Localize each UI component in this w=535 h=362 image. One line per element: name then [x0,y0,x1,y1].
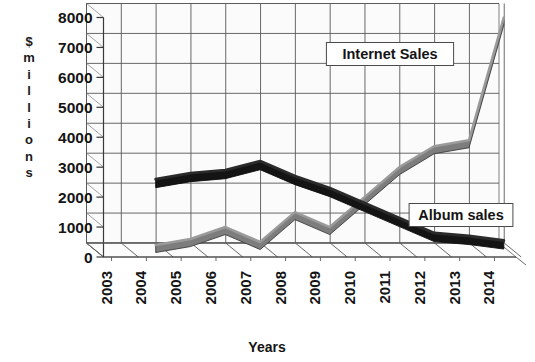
y-axis-title-char: s [18,165,40,181]
y-axis-title-char: o [18,132,40,148]
chart-title-cropped [0,0,535,5]
x-axis-tick-label: 2003 [98,271,115,304]
internet-sales-label-text: Internet Sales [342,46,437,62]
y-axis-title-char: i [18,67,40,83]
x-axis-tick-labels: 2003200420052006200720082009201020112012… [98,257,498,304]
x-axis-tick-label: 2009 [306,271,323,304]
y-axis-title-char: l [18,100,40,116]
x-axis-tick-label: 2014 [480,270,497,304]
x-axis-tick-label: 2011 [376,271,393,304]
y-axis-title-char: m [18,50,40,66]
x-axis-tick-label: 2010 [341,271,358,304]
y-axis-tick-label: 8000 [58,9,92,26]
x-axis-tick-label: 2006 [202,271,219,304]
internet-sales-label: Internet Sales [326,43,453,66]
y-axis-title-char: i [18,116,40,132]
y-axis-tick-label: 3000 [58,159,92,176]
album-sales-label: Album sales [409,204,513,227]
y-axis-tick-label: 5000 [58,99,92,116]
x-axis-tick-label: 2005 [167,271,184,304]
album-sales-label-text: Album sales [418,207,503,223]
y-axis-tick-label: 7000 [58,39,92,56]
y-axis-title-char: l [18,83,40,99]
y-axis-tick-label: 0 [84,249,93,266]
x-axis-tick-label: 2008 [272,271,289,304]
x-axis-tick-label: 2004 [132,270,149,304]
x-axis-tick-label: 2007 [237,271,254,304]
x-axis-title: Years [248,339,286,355]
y-axis-title: $ m i l l i o n s [18,34,40,182]
x-axis-tick-label: 2013 [446,271,463,304]
y-axis-title-char: n [18,149,40,165]
y-axis-tick-labels: 010002000300040005000600070008000 [58,9,92,266]
y-axis-title-char: $ [18,34,40,50]
y-axis-tick-label: 2000 [58,189,92,206]
y-axis-tick-label: 6000 [58,69,92,86]
y-axis-tick-label: 4000 [58,129,92,146]
y-axis-tick-label: 1000 [58,219,92,236]
chart-figure: $ m i l l i o n s 0100020003000400050006… [0,0,535,362]
chart-plot-area: 010002000300040005000600070008000 200320… [0,0,535,362]
x-axis-tick-label: 2012 [411,271,428,304]
